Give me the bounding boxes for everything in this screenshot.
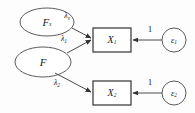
path-f-to-x1[interactable]: λ1 bbox=[60, 34, 91, 53]
path-label-lambda-2: λ2 bbox=[53, 78, 60, 88]
error-node-e1[interactable]: ε1 bbox=[162, 28, 186, 52]
path-arrow-f-x1 bbox=[67, 40, 91, 53]
latent-f-symbol: F bbox=[39, 55, 47, 67]
error-e2-subscript: 2 bbox=[174, 92, 177, 98]
path-label-fixed-one-1: 1 bbox=[148, 24, 153, 34]
observed-x2-subscript: 2 bbox=[114, 92, 117, 98]
diagram-canvas: Fs F X1 X2 ε1 bbox=[0, 0, 195, 113]
path-f-to-x2[interactable]: λ2 bbox=[53, 73, 91, 92]
lambda-2-subscript: 2 bbox=[57, 82, 60, 88]
path-arrow-f-x2 bbox=[55, 73, 91, 92]
error-e1-subscript: 1 bbox=[174, 39, 177, 45]
path-label-lambda-1: λ1 bbox=[60, 34, 67, 44]
latent-fs-subscript: s bbox=[49, 21, 51, 27]
observed-node-x2[interactable]: X2 bbox=[93, 81, 131, 105]
sem-path-diagram: Fs F X1 X2 ε1 bbox=[0, 0, 195, 113]
error-node-e2[interactable]: ε2 bbox=[162, 81, 186, 105]
lambda-1-subscript: 1 bbox=[64, 38, 67, 44]
path-e1-to-x1[interactable]: 1 bbox=[133, 24, 162, 40]
path-label-fixed-one-2: 1 bbox=[148, 77, 153, 87]
lambda-s-subscript: s bbox=[68, 15, 70, 21]
latent-node-f[interactable]: F bbox=[15, 47, 71, 77]
path-e2-to-x2[interactable]: 1 bbox=[133, 77, 162, 93]
observed-node-x1[interactable]: X1 bbox=[93, 28, 131, 52]
observed-x1-subscript: 1 bbox=[114, 39, 117, 45]
path-arrow-fs-x1 bbox=[72, 28, 91, 38]
path-label-lambda-s: λs bbox=[63, 11, 70, 21]
latent-node-f-label: F bbox=[39, 55, 47, 67]
